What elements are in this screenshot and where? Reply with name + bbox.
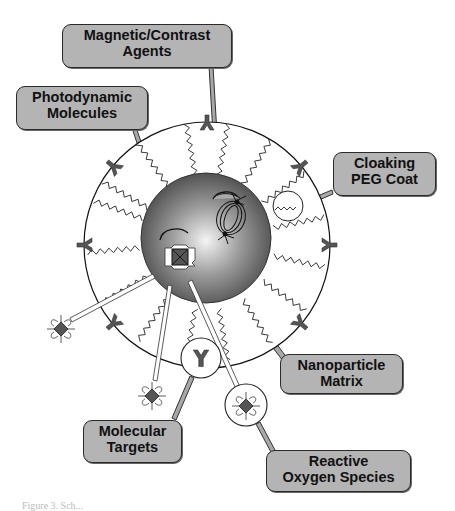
label-magnetic-line2: Agents [69,43,225,59]
label-ros-line2: Oxygen Species [273,469,404,485]
label-nanoparticle-matrix: Nanoparticle Matrix [280,354,403,394]
label-photodynamic-molecules: Photodynamic Molecules [16,86,148,130]
label-photodynamic-line2: Molecules [23,105,141,121]
label-photodynamic-line1: Photodynamic [23,89,141,105]
label-ros-line1: Reactive [273,453,404,469]
label-magnetic-line1: Magnetic/Contrast [69,27,225,43]
label-cloaking-line2: PEG Coat [340,171,429,187]
label-targets-line2: Targets [90,439,175,455]
label-magnetic-contrast-agents: Magnetic/Contrast Agents [62,24,232,68]
ros-molecule-2 [138,382,166,410]
label-reactive-oxygen-species: Reactive Oxygen Species [266,450,411,492]
label-cloaking-line1: Cloaking [340,155,429,171]
connector-targets [172,376,194,420]
label-matrix-line2: Matrix [287,373,396,389]
label-targets-line1: Molecular [90,423,175,439]
label-molecular-targets: Molecular Targets [83,420,182,463]
label-cloaking-peg-coat: Cloaking PEG Coat [333,152,436,196]
figure-caption: Figure 3. Sch... [22,500,83,511]
label-matrix-line1: Nanoparticle [287,357,396,373]
